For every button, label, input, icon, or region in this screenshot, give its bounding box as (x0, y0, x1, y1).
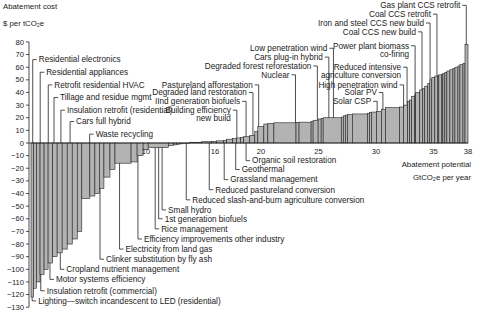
bar-66 (410, 100, 412, 143)
annotation-label: Coal CCS retrofit (369, 10, 432, 19)
bar-54 (345, 115, 347, 143)
bar-72 (425, 86, 428, 143)
bar-69 (416, 92, 420, 143)
bar-6 (53, 143, 58, 257)
x-tick-label: 35 (429, 147, 437, 156)
bar-64 (404, 105, 408, 143)
y-tick-label: 30 (16, 101, 24, 110)
y-tick-label: −70 (11, 227, 24, 236)
bar-12 (82, 143, 90, 199)
x-axis-title-line2: GtCO₂e per year (413, 173, 471, 182)
y-tick-label: −110 (7, 278, 24, 287)
annotation-label-continued: agriculture conversion (321, 71, 402, 80)
bar-49 (318, 119, 321, 143)
annotation-label: Reduced pastureland conversion (215, 186, 335, 195)
bar-74 (430, 80, 432, 143)
annotation-leader (48, 85, 52, 143)
bar-83 (450, 70, 453, 143)
y-tick-label: −20 (11, 164, 24, 173)
y-tick-label: 10 (16, 126, 24, 135)
annotation-label-continued: new build (196, 114, 231, 123)
y-tick-label: 50 (16, 75, 24, 84)
annotation-label: IInd generation biofuels (155, 97, 240, 106)
bar-63 (400, 107, 404, 143)
y-tick-label: −100 (7, 265, 24, 274)
bar-76 (435, 76, 438, 143)
y-axis-title-line2: $ per tCO₂e (3, 19, 44, 28)
annotation-label: Motor systems efficiency (56, 275, 146, 284)
bar-10 (72, 143, 77, 239)
annotation-leader (400, 85, 404, 107)
y-tick-label: 70 (16, 50, 24, 59)
y-axis-title-line1: Abatement cost (3, 2, 58, 11)
annotation-leader (41, 274, 45, 290)
bar-35 (233, 139, 237, 143)
annotation-leader (236, 143, 240, 170)
bar-4 (44, 143, 48, 269)
annotation-leader (186, 144, 190, 200)
bar-34 (227, 139, 233, 143)
annotation-leader (255, 85, 259, 127)
bar-65 (408, 101, 410, 143)
annotation-label: Grassland management (230, 175, 318, 184)
bar-46 (299, 122, 311, 143)
bar-42 (264, 124, 268, 143)
y-tick-label: −40 (11, 189, 24, 198)
y-tick-label: −90 (11, 252, 24, 261)
annotation-label: Cropland nutrient management (66, 265, 180, 274)
bar-37 (241, 138, 244, 143)
bar-88 (463, 63, 465, 143)
bar-82 (447, 71, 450, 143)
annotation-label: Residential appliances (46, 68, 128, 77)
bar-40 (255, 132, 258, 143)
bar-38 (244, 137, 250, 143)
bar-7 (57, 143, 62, 253)
bar-47 (311, 122, 313, 143)
bar-57 (367, 113, 369, 143)
bar-18 (115, 143, 131, 163)
bar-67 (412, 96, 415, 143)
bar-84 (453, 68, 455, 143)
bar-0 (31, 143, 34, 297)
bar-86 (458, 66, 460, 143)
annotation-label-continued: co-firing (380, 50, 410, 59)
bar-70 (420, 90, 423, 143)
annotation-leader (33, 60, 37, 143)
annotation-label: Low penetration wind (250, 44, 328, 53)
bar-11 (77, 143, 82, 231)
bar-44 (274, 123, 296, 143)
bar-41 (258, 127, 264, 143)
x-tick-label: 10 (142, 147, 150, 156)
bar-17 (110, 143, 115, 170)
bar-71 (423, 89, 425, 143)
y-tick-label: 20 (16, 113, 24, 122)
bar-75 (432, 77, 435, 143)
bar-55 (347, 115, 352, 143)
bar-39 (250, 135, 255, 143)
annotation-leader (242, 101, 246, 136)
bar-16 (104, 143, 110, 177)
bar-13 (90, 143, 95, 196)
annotation-label: Pastureland afforestation (162, 81, 253, 90)
annotation-leader (40, 72, 44, 143)
bar-48 (313, 120, 318, 143)
annotation-leader (379, 92, 383, 109)
annotation-leader (233, 110, 237, 138)
bar-62 (386, 108, 400, 143)
annotation-leader (246, 143, 250, 161)
bar-8 (62, 143, 67, 249)
y-tick-label: 60 (16, 63, 24, 72)
bar-60 (376, 111, 381, 143)
bar-45 (296, 122, 299, 143)
bar-51 (323, 118, 341, 143)
annotation-label: Insulation retrofit (residential) (67, 106, 173, 115)
annotation-leader (411, 46, 415, 95)
annotation-label: Solar CSP (333, 97, 372, 106)
bar-50 (321, 118, 323, 143)
annotation-leader (224, 143, 228, 180)
annotation-label: Retrofit residential HVAC (54, 81, 144, 90)
bar-81 (445, 72, 447, 143)
bar-58 (369, 113, 371, 143)
bar-87 (460, 65, 463, 143)
annotation-label: Electricity from land gas (126, 245, 213, 254)
